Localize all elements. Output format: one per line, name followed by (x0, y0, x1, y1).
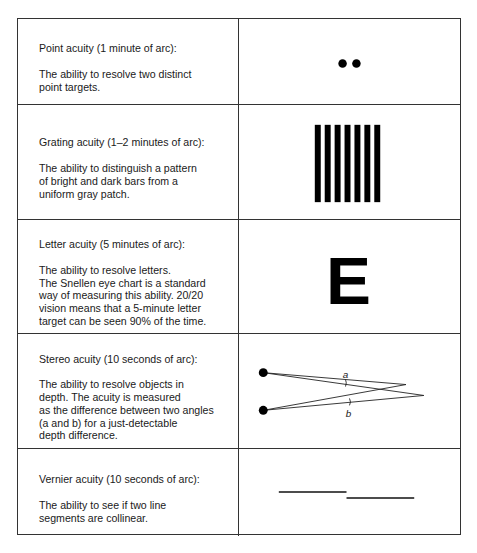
point-acuity-figure (239, 19, 460, 104)
grating-acuity-description: The ability to distinguish a pattern of … (39, 162, 197, 200)
letter-acuity-text-cell: Letter acuity (5 minutes of arc): The ab… (18, 220, 239, 333)
stereo-acuity-title: Stereo acuity (10 seconds of arc): (39, 353, 197, 365)
snellen-e-icon: E (239, 220, 460, 333)
angle-a-label: a (343, 369, 349, 380)
row-point-acuity: Point acuity (1 minute of arc): The abil… (18, 19, 460, 105)
stereo-angles-icon: a b (239, 334, 460, 448)
two-dots-icon (239, 19, 460, 104)
grating-bars-icon (239, 105, 460, 219)
acuity-table: Point acuity (1 minute of arc): The abil… (17, 18, 461, 535)
grating-acuity-text-cell: Grating acuity (1–2 minutes of arc): The… (18, 105, 239, 219)
stereo-acuity-description: The ability to resolve objects in depth.… (39, 378, 214, 441)
point-acuity-text-cell: Point acuity (1 minute of arc): The abil… (18, 19, 239, 104)
row-stereo-acuity: Stereo acuity (10 seconds of arc): The a… (18, 334, 460, 449)
point-acuity-description: The ability to resolve two distinct poin… (39, 68, 192, 93)
angle-a-arc (346, 380, 347, 387)
vernier-acuity-text-cell: Vernier acuity (10 seconds of arc): The … (18, 449, 239, 536)
vernier-lines-icon (239, 449, 460, 536)
stereo-acuity-figure: a b (239, 334, 460, 448)
angle-b-label: b (346, 408, 352, 419)
vernier-acuity-figure (239, 449, 460, 536)
letter-acuity-title: Letter acuity (5 minutes of arc): (39, 238, 185, 250)
row-vernier-acuity: Vernier acuity (10 seconds of arc): The … (18, 449, 460, 536)
letter-acuity-description: The ability to resolve letters. The Snel… (39, 264, 206, 327)
row-grating-acuity: Grating acuity (1–2 minutes of arc): The… (18, 105, 460, 220)
bottom-eye-dot (259, 406, 268, 415)
row-letter-acuity: Letter acuity (5 minutes of arc): The ab… (18, 220, 460, 334)
letter-acuity-figure: E (239, 220, 460, 333)
grating-acuity-title: Grating acuity (1–2 minutes of arc): (39, 136, 204, 148)
point-acuity-title: Point acuity (1 minute of arc): (39, 42, 177, 54)
vernier-acuity-title: Vernier acuity (10 seconds of arc): (39, 473, 200, 485)
grating-acuity-figure (239, 105, 460, 219)
stereo-acuity-text-cell: Stereo acuity (10 seconds of arc): The a… (18, 334, 239, 448)
snellen-letter: E (326, 243, 371, 318)
top-eye-dot (259, 368, 268, 377)
vernier-acuity-description: The ability to see if two line segments … (39, 499, 166, 524)
